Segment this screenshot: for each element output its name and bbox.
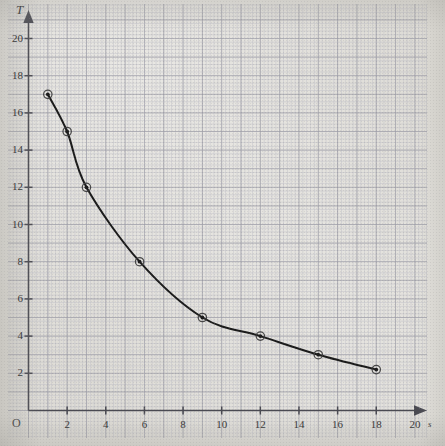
data-point-dot bbox=[258, 334, 262, 338]
chart-canvas bbox=[0, 0, 445, 446]
x-tick-label: 12 bbox=[245, 418, 275, 430]
chart-screenshot: T s O 24681012141618202468101214161820 bbox=[0, 0, 445, 446]
y-axis-label: T bbox=[16, 2, 23, 18]
x-tick-label: 4 bbox=[91, 418, 121, 430]
x-tick-label: 8 bbox=[168, 418, 198, 430]
data-point-dot bbox=[200, 316, 204, 320]
y-tick-label: 4 bbox=[0, 329, 23, 341]
y-tick-label: 6 bbox=[0, 292, 23, 304]
axis-ticks bbox=[25, 39, 415, 415]
data-point-dot bbox=[85, 185, 89, 189]
x-tick-label: 16 bbox=[323, 418, 353, 430]
y-tick-label: 18 bbox=[0, 69, 23, 81]
x-tick-label: 20 bbox=[400, 418, 430, 430]
y-tick-label: 10 bbox=[0, 218, 23, 230]
y-tick-label: 8 bbox=[0, 255, 23, 267]
origin-label: O bbox=[12, 416, 21, 431]
y-tick-label: 2 bbox=[0, 366, 23, 378]
data-point-dot bbox=[46, 92, 50, 96]
data-point-dot bbox=[374, 368, 378, 372]
x-tick-label: 18 bbox=[361, 418, 391, 430]
data-point-dot bbox=[65, 130, 69, 134]
x-tick-label: 14 bbox=[284, 418, 314, 430]
x-tick-label: 6 bbox=[129, 418, 159, 430]
x-tick-label: 2 bbox=[52, 418, 82, 430]
y-tick-label: 20 bbox=[0, 32, 23, 44]
y-tick-label: 12 bbox=[0, 180, 23, 192]
y-tick-label: 16 bbox=[0, 106, 23, 118]
y-tick-label: 14 bbox=[0, 143, 23, 155]
data-point-dot bbox=[138, 260, 142, 264]
chart-svg bbox=[0, 0, 445, 446]
x-tick-label: 10 bbox=[207, 418, 237, 430]
data-point-dot bbox=[316, 353, 320, 357]
